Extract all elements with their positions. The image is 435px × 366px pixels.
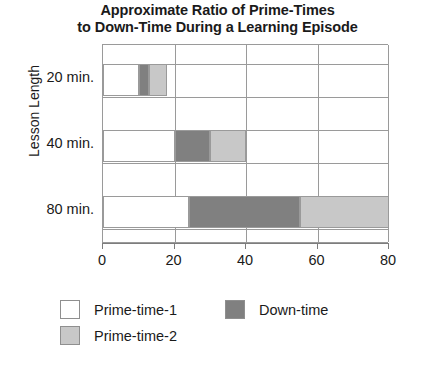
gridline-y-2 (103, 97, 388, 98)
x-tick-label-20: 20 (154, 252, 194, 268)
chart-title-line-2: to Down-Time During a Learning Episode (0, 19, 435, 36)
bar-20min-prime-time-1 (103, 64, 139, 96)
bar-80min-prime-time-2 (300, 196, 389, 228)
legend-entry-down-time[interactable]: Down-time (225, 300, 328, 319)
legend-swatch-prime-time-2-icon (60, 326, 80, 345)
x-tick-80 (388, 243, 389, 249)
x-tick-60 (317, 243, 318, 249)
x-tick-20 (174, 243, 175, 249)
chart-legend: Prime-time-1 Prime-time-2 Down-time (60, 300, 390, 352)
legend-entry-prime-time-1[interactable]: Prime-time-1 (60, 300, 177, 319)
x-tick-label-80: 80 (368, 252, 408, 268)
x-tick-40 (245, 243, 246, 249)
y-category-label-20min: 20 min. (0, 69, 94, 85)
bar-chart: Approximate Ratio of Prime-Times to Down… (0, 0, 435, 366)
bar-20min-prime-time-2 (149, 64, 167, 96)
legend-label-prime-time-1: Prime-time-1 (94, 302, 177, 318)
gridline-y-4 (103, 163, 388, 164)
chart-title: Approximate Ratio of Prime-Times to Down… (0, 2, 435, 36)
legend-entry-prime-time-2[interactable]: Prime-time-2 (60, 326, 177, 345)
x-tick-label-60: 60 (297, 252, 337, 268)
y-category-label-40min: 40 min. (0, 135, 94, 151)
legend-label-prime-time-2: Prime-time-2 (94, 328, 177, 344)
bar-80min-down-time (189, 196, 300, 228)
bar-40min-prime-time-1 (103, 130, 175, 162)
legend-swatch-prime-time-1-icon (60, 300, 80, 319)
x-tick-label-40: 40 (225, 252, 265, 268)
legend-swatch-down-time-icon (225, 300, 245, 319)
x-tick-label-0: 0 (82, 252, 122, 268)
legend-label-down-time: Down-time (259, 302, 328, 318)
chart-title-line-1: Approximate Ratio of Prime-Times (100, 2, 334, 18)
y-axis-title: Lesson Length (26, 31, 42, 191)
bar-40min-prime-time-2 (210, 130, 246, 162)
y-category-label-80min: 80 min. (0, 201, 94, 217)
bar-20min-down-time (139, 64, 150, 96)
gridline-y-6 (103, 229, 388, 230)
x-tick-0 (102, 243, 103, 249)
bar-80min-prime-time-1 (103, 196, 189, 228)
plot-area (102, 44, 388, 243)
bar-40min-down-time (175, 130, 211, 162)
